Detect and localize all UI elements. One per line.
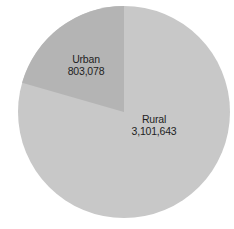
urban-label-value: 803,078 (68, 65, 105, 77)
pie-chart-graphic (0, 0, 234, 229)
rural-label: Rural 3,101,643 (132, 113, 177, 137)
urban-label-name: Urban (68, 53, 105, 65)
rural-label-name: Rural (132, 113, 177, 125)
pie-chart: Urban 803,078 Rural 3,101,643 (0, 0, 234, 229)
rural-label-value: 3,101,643 (132, 125, 177, 137)
urban-label: Urban 803,078 (68, 53, 105, 77)
